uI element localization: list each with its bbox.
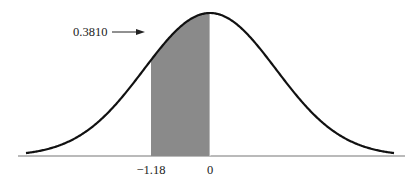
tick-label-zero: 0 xyxy=(207,163,213,177)
shaded-area xyxy=(151,13,210,156)
arrow-head-icon xyxy=(136,29,145,35)
normal-curve-diagram: 0.3810 −1.18 0 xyxy=(0,0,418,186)
tick-label-neg-1-18: −1.18 xyxy=(137,163,166,177)
area-label: 0.3810 xyxy=(73,25,107,39)
